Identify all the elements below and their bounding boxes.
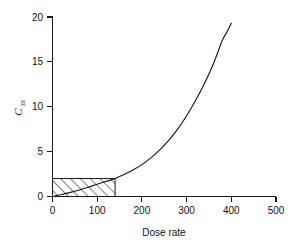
- y-tick-label-20: 20: [32, 12, 44, 23]
- y-tick-label-0: 0: [37, 191, 43, 202]
- y-tick-labels: 0 5 10 15 20: [32, 12, 44, 203]
- css-dose-curve: [53, 23, 232, 196]
- x-tick-label-300: 300: [178, 205, 195, 216]
- y-tick-label-15: 15: [32, 56, 44, 67]
- y-tick-marks: [47, 17, 53, 197]
- x-tick-label-100: 100: [89, 205, 106, 216]
- axes-group: [53, 17, 277, 197]
- chart-figure: 0 5 10 15 20 0 100 200 300 400 500: [0, 0, 291, 245]
- x-tick-label-500: 500: [268, 205, 285, 216]
- x-tick-labels: 0 100 200 300 400 500: [50, 205, 285, 216]
- y-tick-label-5: 5: [37, 146, 43, 157]
- x-tick-marks: [53, 197, 277, 203]
- x-tick-label-400: 400: [223, 205, 240, 216]
- x-tick-label-200: 200: [134, 205, 151, 216]
- x-tick-label-0: 0: [50, 205, 56, 216]
- chart-canvas: 0 5 10 15 20 0 100 200 300 400 500: [0, 0, 291, 245]
- y-tick-label-10: 10: [32, 101, 44, 112]
